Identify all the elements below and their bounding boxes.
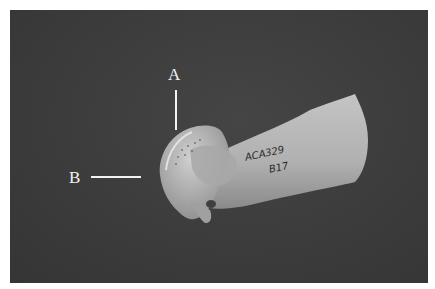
label-b-pointer [91, 176, 141, 178]
bone-illustration [10, 10, 428, 283]
specimen-photo [10, 10, 428, 283]
label-a-pointer [175, 90, 177, 130]
label-a: A [168, 66, 180, 83]
label-b: B [69, 169, 80, 186]
